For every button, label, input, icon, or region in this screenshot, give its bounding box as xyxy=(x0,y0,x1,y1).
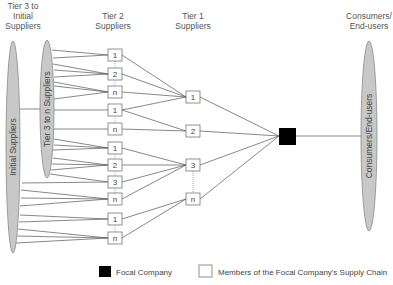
header-consumers: Consumers/ End-users xyxy=(346,11,392,31)
tier2-box: n xyxy=(108,86,122,98)
legend-focal-label: Focal Company xyxy=(116,268,172,277)
svg-text:3: 3 xyxy=(113,178,118,187)
ellipse-tier3-to-n-suppliers: Tier 3 to n Suppliers xyxy=(40,40,54,178)
header-tier3: Tier 3 to Initial Suppliers xyxy=(5,1,40,31)
legend: Focal Company Members of the Focal Compa… xyxy=(99,265,387,277)
tier2-box: 1 xyxy=(108,49,122,61)
tier2-box: 1 xyxy=(108,213,122,225)
tier2-box: 1 xyxy=(108,142,122,154)
header-consumers-line1: Consumers/ xyxy=(346,11,392,21)
legend-member-swatch xyxy=(199,265,212,277)
supply-chain-diagram: Tier 3 to Initial Suppliers Tier 2 Suppl… xyxy=(0,0,393,285)
svg-text:1: 1 xyxy=(113,51,118,60)
header-tier1-line2: Suppliers xyxy=(175,21,210,31)
svg-text:n: n xyxy=(113,88,117,97)
tier3n-suppliers-label: Tier 3 to n Suppliers xyxy=(42,71,52,147)
header-tier3-line1: Tier 3 to xyxy=(8,1,39,11)
initial-suppliers-label: Initial Suppliers xyxy=(8,118,18,176)
tier2-box: 1 xyxy=(108,104,122,116)
header-tier1: Tier 1 Suppliers xyxy=(175,11,210,31)
legend-members-label: Members of the Focal Company's Supply Ch… xyxy=(218,268,387,277)
svg-text:2: 2 xyxy=(113,161,118,170)
svg-text:n: n xyxy=(113,234,117,243)
tier2-box: n xyxy=(108,193,122,205)
svg-text:3: 3 xyxy=(191,161,196,170)
header-tier3-line3: Suppliers xyxy=(5,21,40,31)
focal-company-node xyxy=(279,128,296,145)
header-tier2-line1: Tier 2 xyxy=(102,11,124,21)
consumers-label: Consumers/End-users xyxy=(364,94,374,179)
tier1-box: n xyxy=(186,193,200,205)
ellipse-consumers: Consumers/End-users xyxy=(361,41,377,231)
tier2-box: 2 xyxy=(108,68,122,80)
tier2-box: n xyxy=(108,123,122,135)
tier2-box: 2 xyxy=(108,159,122,171)
tier1-box: 1 xyxy=(186,91,200,103)
header-tier2-line2: Suppliers xyxy=(95,21,130,31)
tier1-box: 2 xyxy=(186,125,200,137)
header-tier3-line2: Initial xyxy=(13,11,33,21)
svg-text:2: 2 xyxy=(191,127,196,136)
connection-lines xyxy=(16,50,362,243)
legend-focal-swatch xyxy=(99,266,111,277)
svg-text:2: 2 xyxy=(113,70,118,79)
tier2-boxes: 1 2 n 1 n 1 2 3 n 1 n xyxy=(108,49,122,244)
svg-text:n: n xyxy=(191,195,195,204)
svg-text:n: n xyxy=(113,195,117,204)
ellipse-initial-suppliers: Initial Suppliers xyxy=(6,41,20,253)
svg-text:1: 1 xyxy=(113,144,118,153)
header-tier2: Tier 2 Suppliers xyxy=(95,11,130,31)
tier2-box: n xyxy=(108,232,122,244)
svg-text:1: 1 xyxy=(113,106,118,115)
svg-text:n: n xyxy=(113,125,117,134)
tier2-box: 3 xyxy=(108,176,122,188)
header-consumers-line2: End-users xyxy=(350,21,389,31)
svg-text:1: 1 xyxy=(113,215,118,224)
svg-text:1: 1 xyxy=(191,93,196,102)
header-tier1-line1: Tier 1 xyxy=(182,11,204,21)
tier1-box: 3 xyxy=(186,159,200,171)
